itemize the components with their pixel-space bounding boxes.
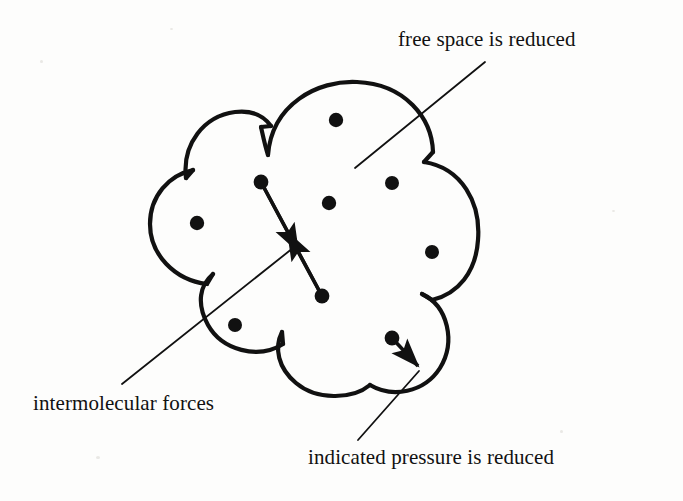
molecule-upper-right: [385, 176, 399, 190]
diagram-svg: [0, 0, 683, 501]
leader-line-intermolecular: [122, 248, 293, 384]
leader-line-free-space: [355, 62, 485, 168]
molecule-boundary: [385, 331, 400, 346]
molecules-group: [190, 113, 439, 346]
molecule-right: [425, 245, 439, 259]
molecule-left: [190, 216, 204, 230]
label-free-space: free space is reduced: [398, 28, 576, 51]
molecule-lower-left: [228, 318, 242, 332]
label-intermolecular-forces: intermolecular forces: [33, 392, 214, 415]
label-indicated-pressure: indicated pressure is reduced: [308, 446, 554, 469]
molecule-top: [329, 113, 343, 127]
figure-canvas: free space is reduced intermolecular for…: [0, 0, 683, 501]
leader-line-indicated-pressure: [358, 371, 419, 440]
molecule-pair-upper: [254, 175, 269, 190]
intermolecular-force-arrow: [261, 182, 322, 296]
molecule-center: [322, 196, 336, 210]
molecule-pair-lower: [315, 289, 330, 304]
gas-container-outline: [150, 82, 478, 396]
